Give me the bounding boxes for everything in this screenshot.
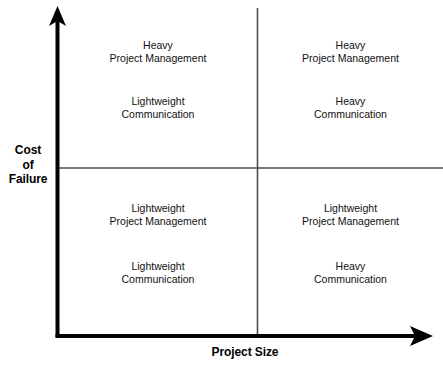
quadrant-bottom-left: Lightweight Project Management Lightweig… xyxy=(59,170,257,336)
quadrant-bottom-left-block-b-line-2: Communication xyxy=(122,273,195,286)
quadrant-bottom-right-block-b: Heavy Communication xyxy=(314,260,387,286)
quadrant-top-right-block-b-line-1: Heavy xyxy=(314,95,387,108)
quadrant-top-left-block-a-line-2: Project Management xyxy=(110,52,207,65)
x-axis-title: Project Size xyxy=(57,345,433,359)
quadrant-bottom-left-block-a-line-2: Project Management xyxy=(110,215,207,228)
diagram-canvas: Cost of Failure Project Size Heavy Proje… xyxy=(0,0,443,371)
quadrant-bottom-right-block-b-line-2: Communication xyxy=(314,273,387,286)
quadrant-bottom-left-block-b: Lightweight Communication xyxy=(122,260,195,286)
quadrant-top-left-block-b-line-1: Lightweight xyxy=(122,95,195,108)
quadrant-bottom-right: Lightweight Project Management Heavy Com… xyxy=(258,170,443,336)
quadrant-top-left-block-a-line-1: Heavy xyxy=(110,39,207,52)
quadrant-bottom-left-block-b-line-1: Lightweight xyxy=(122,260,195,273)
y-axis-title: Cost of Failure xyxy=(0,143,56,187)
quadrant-top-right-block-b: Heavy Communication xyxy=(314,95,387,121)
quadrant-bottom-left-block-a: Lightweight Project Management xyxy=(110,202,207,228)
quadrant-bottom-right-block-b-line-1: Heavy xyxy=(314,260,387,273)
quadrant-top-right: Heavy Project Management Heavy Communica… xyxy=(258,10,443,167)
quadrant-bottom-right-block-a-line-2: Project Management xyxy=(302,215,399,228)
quadrant-top-right-block-b-line-2: Communication xyxy=(314,108,387,121)
y-axis-title-line-1: Cost xyxy=(0,143,56,158)
quadrant-top-right-block-a: Heavy Project Management xyxy=(302,39,399,65)
quadrant-bottom-left-block-a-line-1: Lightweight xyxy=(110,202,207,215)
quadrant-top-left-block-b: Lightweight Communication xyxy=(122,95,195,121)
quadrant-top-right-block-a-line-1: Heavy xyxy=(302,39,399,52)
quadrant-top-right-block-a-line-2: Project Management xyxy=(302,52,399,65)
quadrant-bottom-right-block-a: Lightweight Project Management xyxy=(302,202,399,228)
y-axis-title-line-3: Failure xyxy=(0,172,56,187)
quadrant-top-left: Heavy Project Management Lightweight Com… xyxy=(59,10,257,167)
quadrant-top-left-block-b-line-2: Communication xyxy=(122,108,195,121)
quadrant-bottom-right-block-a-line-1: Lightweight xyxy=(302,202,399,215)
y-axis-title-line-2: of xyxy=(0,158,56,173)
quadrant-top-left-block-a: Heavy Project Management xyxy=(110,39,207,65)
